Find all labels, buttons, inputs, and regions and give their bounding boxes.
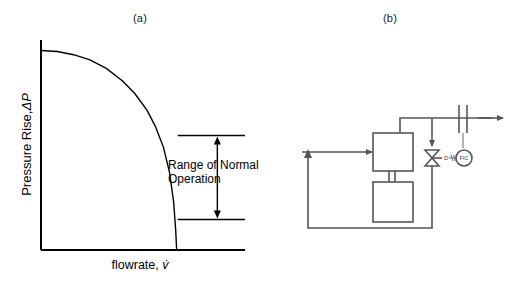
range-caption-line-2: Operation — [168, 172, 260, 186]
pump-curve-chart — [0, 0, 260, 291]
range-of-normal-operation-caption: Range of Normal Operation — [168, 158, 260, 186]
panel-b-diagram: (b) D — [260, 0, 510, 291]
x-axis-title-symbol: v̇ — [162, 258, 168, 272]
pump-characteristic-curve — [41, 51, 177, 251]
discharge-line — [400, 118, 492, 133]
x-axis-title-text: flowrate, — [112, 258, 159, 272]
y-axis-title: Pressure Rise,ΔP — [19, 60, 34, 230]
panel-a-chart: (a) Pressure Rise,ΔP flowrate, v̇ Range … — [0, 0, 260, 291]
pump-motor — [373, 182, 413, 222]
x-axis-title: flowrate, v̇ — [60, 258, 220, 272]
y-axis-title-text: Pressure Rise, — [19, 111, 34, 196]
flow-indicating-controller-tag: FIC — [460, 155, 469, 161]
recycle-return-arrow-head — [304, 149, 312, 158]
y-axis-title-symbol: ΔP — [19, 93, 34, 110]
range-arrow-head-down — [214, 211, 221, 219]
range-caption-line-1: Range of Normal — [168, 158, 260, 172]
pump-body — [373, 133, 413, 171]
control-valve-tag: D — [444, 155, 449, 161]
control-valve-lower-body — [425, 158, 439, 166]
range-arrow-head-up — [214, 137, 221, 145]
pump-control-loop-diagram: D FIC — [260, 0, 510, 291]
